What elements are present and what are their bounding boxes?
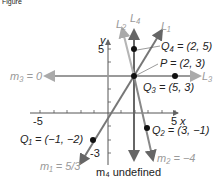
slope-m4: m₄ undefined: [96, 166, 161, 178]
y-tick-5: 5: [98, 43, 104, 55]
slope-m1: m₁ = 5/3: [40, 160, 81, 172]
point-Q4: [131, 46, 137, 52]
x-tick-neg5: -5: [33, 115, 43, 127]
point-P: [131, 73, 137, 79]
point-Q1: [90, 137, 96, 143]
label-Q3: Q₃ = (5, 3): [143, 81, 194, 93]
y-tick-neg3: -3: [90, 147, 100, 159]
label-L1: L₁: [161, 20, 171, 32]
label-P: P = (2, 3): [160, 57, 205, 69]
label-Q4: Q₄ = (2, 5): [161, 40, 213, 52]
coordinate-diagram: Figure y 5 -3 -5: [0, 0, 221, 192]
line-L2: [122, 28, 134, 76]
label-Q2: Q₂ = (3, −1): [152, 124, 210, 136]
figure-caption: Figure: [2, 0, 22, 6]
label-L3: L₃: [202, 70, 213, 82]
slope-m2: m₂ = −4: [157, 152, 195, 164]
point-Q3: [172, 73, 178, 79]
label-L4: L₄: [130, 12, 141, 24]
label-Q1: Q₁ = (−1, −2): [20, 133, 83, 145]
point-Q2: [144, 125, 150, 131]
slope-m3: m₃ = 0: [10, 70, 43, 82]
y-axis: [108, 40, 111, 165]
label-L2: L₂: [116, 18, 127, 30]
x-axis: [30, 110, 178, 113]
